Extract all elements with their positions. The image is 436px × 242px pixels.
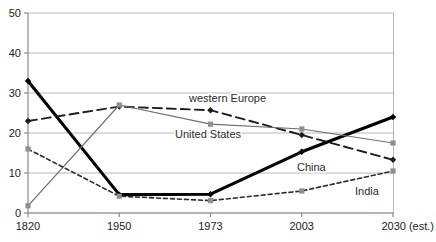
marker-india-4 bbox=[390, 168, 395, 173]
chart-canvas: 01020304050 18201950197320032030 (est.) … bbox=[0, 0, 436, 242]
x-tick-label-1: 1950 bbox=[107, 220, 131, 232]
y-tick-label-10: 10 bbox=[9, 167, 21, 179]
y-tick-label-30: 30 bbox=[9, 87, 21, 99]
marker-united-states-0 bbox=[25, 203, 30, 208]
marker-india-1 bbox=[117, 194, 122, 199]
line-chart: 01020304050 18201950197320032030 (est.) … bbox=[0, 0, 436, 242]
y-tick-label-40: 40 bbox=[9, 47, 21, 59]
marker-india-2 bbox=[208, 198, 213, 203]
marker-united-states-3 bbox=[299, 126, 304, 131]
series-label-china: China bbox=[297, 161, 327, 173]
x-tick-label-4: 2030 (est.) bbox=[381, 220, 434, 232]
series-label-india: India bbox=[355, 185, 380, 197]
marker-united-states-2 bbox=[208, 122, 213, 127]
series-label-united-states: United States bbox=[175, 128, 242, 140]
chart-background bbox=[0, 0, 436, 242]
x-tick-label-2: 1973 bbox=[198, 220, 222, 232]
marker-india-0 bbox=[25, 146, 30, 151]
series-label-western-europe: western Europe bbox=[188, 92, 266, 104]
y-tick-label-0: 0 bbox=[15, 207, 21, 219]
y-tick-label-50: 50 bbox=[9, 7, 21, 19]
marker-united-states-1 bbox=[117, 102, 122, 107]
marker-india-3 bbox=[299, 188, 304, 193]
x-tick-label-0: 1820 bbox=[16, 220, 40, 232]
marker-united-states-4 bbox=[390, 140, 395, 145]
x-tick-label-3: 2003 bbox=[290, 220, 314, 232]
y-tick-label-20: 20 bbox=[9, 127, 21, 139]
